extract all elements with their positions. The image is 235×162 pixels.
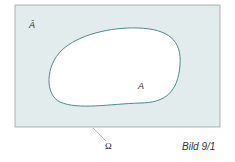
venn-diagram — [0, 0, 235, 162]
complement-label: Ā — [29, 20, 35, 30]
set-a-label: A — [138, 81, 144, 91]
omega-pointer-line — [93, 128, 106, 141]
figure-caption: Bild 9/1 — [182, 141, 215, 152]
universe-label: Ω — [105, 141, 112, 151]
